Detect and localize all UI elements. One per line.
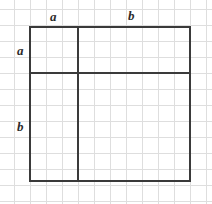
- label-top-a: a: [50, 10, 57, 23]
- label-left-b: b: [17, 120, 24, 133]
- outer-square-outline: [30, 27, 190, 181]
- geometry-figure: a b a b: [0, 0, 212, 204]
- label-top-b: b: [128, 9, 135, 22]
- square-diagram: [0, 0, 212, 204]
- label-left-a: a: [17, 44, 24, 57]
